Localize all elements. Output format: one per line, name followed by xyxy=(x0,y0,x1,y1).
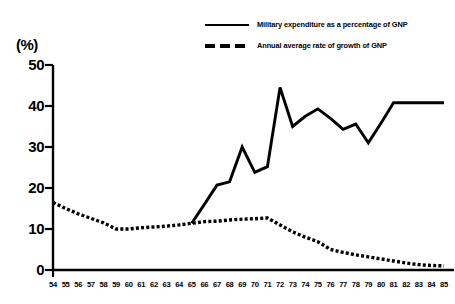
data-series xyxy=(53,88,444,266)
series-line-gnp-growth xyxy=(53,202,444,266)
axes xyxy=(45,65,454,277)
series-line-military-expenditure xyxy=(192,88,444,224)
chart-container: Military expenditure as a percentage of … xyxy=(0,0,455,304)
plot-area xyxy=(0,0,455,304)
